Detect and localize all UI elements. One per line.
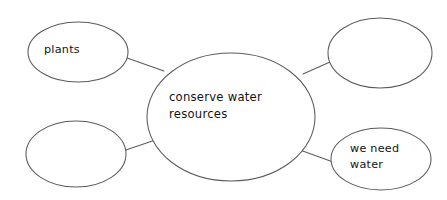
connector-center-to-top-left bbox=[127, 58, 164, 71]
node-ellipse-center[interactable] bbox=[147, 53, 315, 181]
connector-center-to-bottom-right bbox=[300, 150, 333, 162]
node-ellipse-bottom-right[interactable] bbox=[331, 128, 431, 190]
node-ellipse-top-right[interactable] bbox=[328, 18, 432, 88]
connector-center-to-top-right bbox=[303, 62, 330, 74]
concept-map-canvas: conserve water resources plants we need … bbox=[0, 0, 447, 200]
node-ellipse-top-left[interactable] bbox=[28, 22, 128, 82]
node-ellipse-bottom-left[interactable] bbox=[26, 121, 126, 187]
concept-map-svg bbox=[0, 0, 447, 200]
